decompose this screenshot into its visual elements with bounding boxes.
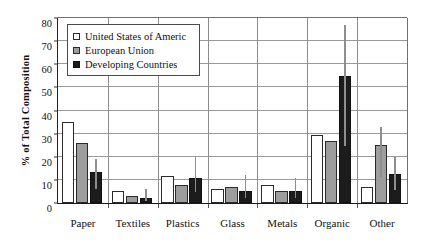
y-tick-mark <box>54 110 58 111</box>
bar <box>62 122 75 203</box>
bar <box>112 191 125 203</box>
x-axis-baseline <box>57 203 408 204</box>
x-tick-label: Other <box>370 217 395 229</box>
bar <box>211 189 224 203</box>
y-tick-mark <box>54 64 58 65</box>
group-separator <box>357 18 358 203</box>
y-tick-mark <box>54 18 58 19</box>
bar <box>175 185 188 204</box>
bar <box>361 187 374 203</box>
legend-item: Developing Countries <box>73 57 194 71</box>
bar <box>76 143 89 203</box>
gridline <box>58 110 407 111</box>
gridline <box>58 179 407 180</box>
error-bar <box>344 25 346 146</box>
legend-item: United States of Americ <box>73 29 194 43</box>
gridline <box>58 156 407 157</box>
x-tick-label: Metals <box>267 217 297 229</box>
bar <box>311 135 324 203</box>
error-bar <box>145 189 147 201</box>
y-tick-mark <box>54 41 58 42</box>
error-bar <box>295 178 297 198</box>
x-tick-label: Textiles <box>115 217 150 229</box>
bar <box>275 191 288 203</box>
legend-item-label: Developing Countries <box>85 59 177 70</box>
y-tick-mark <box>54 179 58 180</box>
chart-legend: United States of Americ European Union D… <box>67 24 200 76</box>
group-separator <box>307 18 308 203</box>
group-separator <box>208 18 209 203</box>
gridline <box>58 133 407 134</box>
x-tick-label: Organic <box>315 217 350 229</box>
y-axis-title: % of Total Composition <box>20 16 31 206</box>
x-tick-label: Plastics <box>166 217 200 229</box>
legend-swatch-icon <box>73 61 80 68</box>
y-tick-mark <box>54 133 58 134</box>
error-bar <box>245 175 247 198</box>
bar <box>261 185 274 204</box>
legend-swatch-icon <box>73 47 80 54</box>
bar <box>161 176 174 203</box>
y-tick-mark <box>54 203 58 204</box>
bar <box>225 187 238 203</box>
gridline <box>58 17 407 18</box>
legend-swatch-icon <box>73 33 80 40</box>
gridline <box>58 86 407 87</box>
bar <box>325 141 338 203</box>
legend-item-label: United States of Americ <box>85 31 186 42</box>
x-tick-label: Glass <box>220 217 244 229</box>
error-bar <box>380 127 382 177</box>
y-tick-mark <box>54 87 58 88</box>
legend-item-label: European Union <box>85 45 154 56</box>
y-tick-mark <box>54 156 58 157</box>
bar-chart: % of Total Composition PaperTextilesPlas… <box>0 0 424 247</box>
error-bar <box>95 159 97 189</box>
error-bar <box>195 157 197 192</box>
x-tick-label: Paper <box>70 217 95 229</box>
legend-item: European Union <box>73 43 194 57</box>
group-separator <box>257 18 258 203</box>
error-bar <box>394 157 396 190</box>
